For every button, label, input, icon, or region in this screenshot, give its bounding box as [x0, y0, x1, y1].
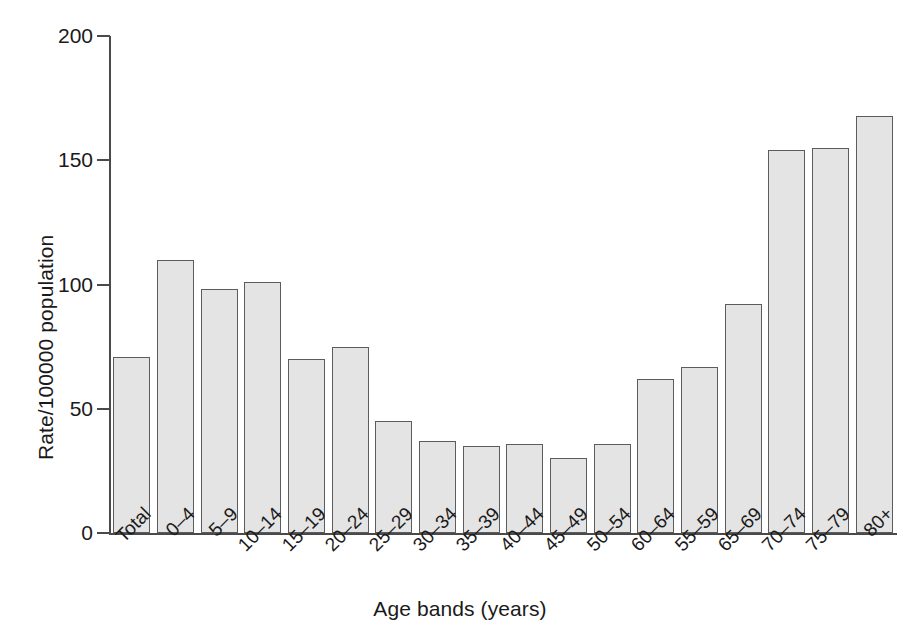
y-tick-label: 200 — [58, 24, 93, 48]
bar — [201, 289, 238, 533]
y-tick-label: 0 — [81, 521, 93, 545]
y-tick-label: 150 — [58, 148, 93, 172]
y-tick-mark — [97, 159, 110, 161]
y-tick-mark — [97, 35, 110, 37]
bar — [725, 304, 762, 533]
y-tick-mark — [97, 408, 110, 410]
bar — [244, 282, 281, 533]
y-axis-title: Rate/100000 population — [34, 0, 74, 460]
y-tick-mark — [97, 532, 110, 534]
bar — [157, 260, 194, 533]
bar — [856, 116, 893, 533]
y-tick-label: 50 — [70, 397, 93, 421]
bar-chart-figure: Rate/100000 population 050100150200 Tota… — [0, 0, 920, 639]
x-axis-title: Age bands (years) — [0, 597, 920, 621]
bar — [332, 347, 369, 533]
plot-area: 050100150200 — [110, 36, 896, 533]
bar — [812, 148, 849, 533]
y-tick-label: 100 — [58, 273, 93, 297]
bar — [768, 150, 805, 533]
y-tick-mark — [97, 284, 110, 286]
bar — [113, 357, 150, 533]
